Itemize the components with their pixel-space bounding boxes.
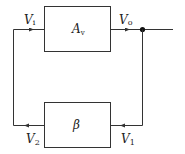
amplifier-label: Av [71,22,85,37]
feedback-label: β [72,118,80,132]
signal-v2: V2 [26,132,40,147]
feedback-input-wire [111,30,143,126]
signal-v1: V1 [121,132,135,147]
signal-vo: Vo [119,13,133,27]
feedback-diagram: Av β Vi Vo V1 V2 [0,0,185,154]
signal-vi: Vi [24,13,36,27]
input-wire [14,30,45,126]
